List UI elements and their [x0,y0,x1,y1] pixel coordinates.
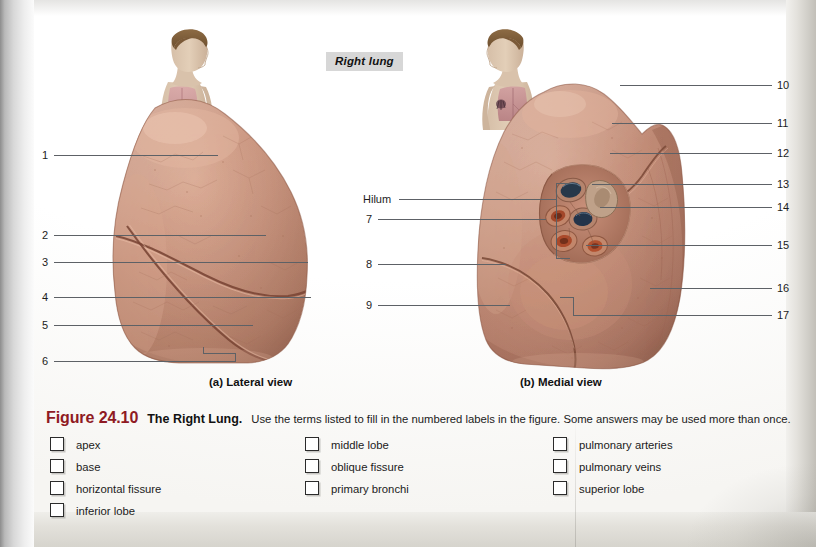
leader-line-16 [650,288,772,289]
checkbox-apex[interactable] [50,437,64,451]
view-caption-lateral: (a) Lateral view [209,376,292,388]
label-17: 17 [777,310,789,321]
pulmonary-artery [586,180,618,217]
checkbox-superior-lobe[interactable] [553,481,567,495]
leader-line-hilum-bracket [556,183,557,258]
figure-number: Figure 24.10 [46,409,138,426]
leader-line-2 [54,235,266,236]
label-8: 8 [366,259,372,270]
label-3: 3 [42,257,48,268]
page-top-shadow [34,0,786,16]
leader-line-14 [600,207,772,208]
checkbox-horizontal-fissure[interactable] [50,481,64,495]
label-2: 2 [42,230,48,241]
label-14: 14 [777,202,789,213]
term-oblique-fissure: oblique fissure [331,462,404,473]
leader-line-11 [612,123,772,124]
lung-lateral-view [83,96,333,371]
view-caption-medial: (b) Medial view [520,376,602,388]
term-horizontal-fissure: horizontal fissure [76,484,161,495]
figure-caption: Figure 24.10The Right Lung.Use the terms… [46,409,776,427]
label-10: 10 [777,80,789,91]
leader-line-6-bracket-left [203,347,204,354]
leader-line-10 [620,85,772,86]
leader-line-17-bracket [573,297,574,316]
page-fold-line [575,416,576,547]
leader-line-hilum-bracket-bottom [556,258,570,259]
label-hilum: Hilum [363,194,391,205]
term-pulmonary-arteries: pulmonary arteries [579,440,673,451]
leader-line-5 [54,325,253,326]
figure-page: Right lung [0,0,816,547]
checkbox-base[interactable] [50,459,64,473]
figure-title: The Right Lung. [147,412,242,426]
checkbox-oblique-fissure[interactable] [305,459,319,473]
label-7: 7 [366,214,372,225]
leader-line-9 [378,305,510,306]
leader-line-13 [592,184,772,185]
figure-instructions: Use the terms listed to fill in the numb… [251,413,790,425]
label-11: 11 [777,118,788,129]
leader-line-hilum-bracket-top [556,183,570,184]
leader-line-17-bracket-top [560,297,574,298]
label-5: 5 [42,320,48,331]
term-primary-bronchi: primary bronchi [331,484,409,495]
leader-line-4 [54,297,311,298]
label-15: 15 [777,240,789,251]
leader-line-hilum [399,199,556,200]
leader-line-1 [54,155,218,156]
checkbox-pulmonary-arteries[interactable] [553,437,567,451]
leader-line-17 [573,315,772,316]
label-12: 12 [777,148,789,159]
leader-line-8 [378,264,506,265]
label-9: 9 [366,300,372,311]
term-base: base [76,462,101,473]
label-13: 13 [777,179,789,190]
term-apex: apex [76,440,101,451]
checkbox-pulmonary-veins[interactable] [553,459,567,473]
leader-line-12 [610,153,772,154]
term-superior-lobe: superior lobe [579,484,644,495]
term-middle-lobe: middle lobe [331,440,389,451]
term-pulmonary-veins: pulmonary veins [579,462,661,473]
panel-title: Right lung [326,52,403,71]
leader-line-7 [378,219,546,220]
page-gutter-left [0,0,34,547]
term-inferior-lobe: inferior lobe [76,506,135,517]
label-6: 6 [42,356,48,367]
checkbox-inferior-lobe[interactable] [50,503,64,517]
leader-line-3 [54,262,308,263]
label-16: 16 [777,283,789,294]
leader-line-6-bracket-right [235,353,236,362]
page-corner-shadow [666,457,816,547]
leader-line-6-bracket-top [203,353,236,354]
label-4: 4 [42,292,48,303]
label-1: 1 [42,150,48,161]
leader-line-6 [54,361,235,362]
leader-line-15 [586,245,772,246]
checkbox-primary-bronchi[interactable] [305,481,319,495]
checkbox-middle-lobe[interactable] [305,437,319,451]
